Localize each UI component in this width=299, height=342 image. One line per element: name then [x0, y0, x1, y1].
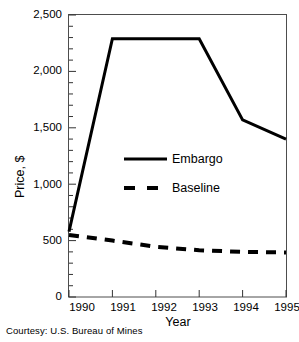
x-tick-label: 1993	[183, 302, 227, 314]
figure-container: 2,500 2,000 1,500 1,000 500 0 1990 1991 …	[0, 0, 299, 342]
x-axis-title: Year	[152, 316, 204, 329]
legend-label-embargo: Embargo	[172, 153, 223, 166]
x-tick-label: 1995	[265, 302, 299, 314]
x-tick-label: 1992	[142, 302, 186, 314]
x-tick-label: 1991	[101, 302, 145, 314]
y-tick-label: 0	[6, 291, 62, 303]
y-axis-title: Price, $	[14, 156, 27, 198]
x-tick-label: 1990	[60, 302, 104, 314]
source-caption: Courtesy: U.S. Bureau of Mines	[6, 326, 143, 336]
legend-label-baseline: Baseline	[172, 182, 220, 195]
x-tick-label: 1994	[224, 302, 268, 314]
y-tick-label: 500	[6, 235, 62, 247]
y-tick-label: 1,500	[6, 122, 62, 134]
y-tick-label: 2,500	[6, 9, 62, 21]
y-tick-label: 2,000	[6, 65, 62, 77]
